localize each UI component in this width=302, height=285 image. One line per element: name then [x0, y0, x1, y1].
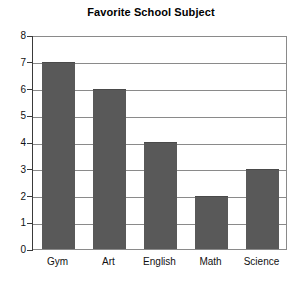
y-axis-tick-label: 5 — [6, 111, 26, 121]
y-axis-tick-label: 3 — [6, 165, 26, 175]
chart-title: Favorite School Subject — [0, 6, 302, 19]
y-axis-tick — [27, 223, 33, 224]
y-axis-tick — [27, 143, 33, 144]
y-axis-tick — [27, 196, 33, 197]
y-axis-labels: 012345678 — [4, 0, 26, 285]
y-axis-tick-label: 1 — [6, 218, 26, 228]
y-axis-tick-label: 6 — [6, 85, 26, 95]
plot-area — [32, 36, 287, 250]
y-axis-tick — [27, 169, 33, 170]
y-axis-tick-label: 2 — [6, 192, 26, 202]
y-axis-tick — [27, 36, 33, 37]
plot-inner — [33, 37, 286, 249]
x-axis-label-gym: Gym — [32, 256, 83, 267]
y-axis-tick — [27, 116, 33, 117]
y-axis-tick-label: 7 — [6, 58, 26, 68]
bar-english[interactable] — [144, 142, 178, 249]
bar-science[interactable] — [246, 169, 280, 249]
y-axis-line — [32, 36, 33, 251]
bar-gym[interactable] — [42, 62, 76, 249]
y-axis-tick-label: 8 — [6, 31, 26, 41]
x-axis-label-science: Science — [236, 256, 287, 267]
bar-art[interactable] — [93, 89, 127, 250]
x-axis-label-math: Math — [185, 256, 236, 267]
y-axis-tick — [27, 250, 33, 251]
bar-math[interactable] — [195, 196, 229, 250]
x-axis-label-english: English — [134, 256, 185, 267]
y-axis-tick-label: 0 — [6, 245, 26, 255]
y-axis-tick-label: 4 — [6, 138, 26, 148]
bar-chart: Favorite School Subject 012345678 GymArt… — [0, 0, 302, 285]
y-axis-tick — [27, 89, 33, 90]
x-axis-label-art: Art — [83, 256, 134, 267]
y-axis-tick — [27, 62, 33, 63]
